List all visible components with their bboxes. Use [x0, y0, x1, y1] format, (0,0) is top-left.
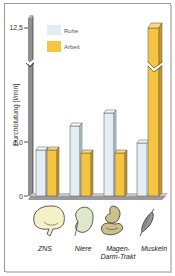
bar-niere-arbeit	[81, 150, 93, 196]
legend-label-arbeit: Arbeit	[64, 44, 80, 50]
category-label-muskeln: Muskeln	[136, 245, 172, 253]
stomach-intestine-icon	[102, 206, 123, 235]
legend-swatch-ruhe	[47, 25, 61, 35]
y-axis	[24, 15, 34, 196]
y-axis-title: Durchblutung [l/min]	[12, 84, 20, 146]
bar-group-muskeln	[137, 23, 163, 196]
bar-muskeln-arbeit	[147, 23, 163, 196]
bar-group-niere	[70, 123, 93, 196]
bar-group-zns	[36, 147, 59, 196]
bar-muskeln-ruhe	[137, 140, 149, 196]
legend: Ruhe Arbeit	[47, 25, 80, 52]
muscle-icon	[140, 209, 154, 236]
brain-icon	[34, 206, 65, 236]
category-label-magen: Magen-	[98, 245, 138, 253]
y-tick-12-5: 12,5	[9, 24, 23, 31]
bar-niere-ruhe	[70, 123, 82, 196]
legend-swatch-arbeit	[47, 41, 61, 52]
category-label-darm-trakt: Darm-Trakt	[96, 253, 140, 261]
legend-label-ruhe: Ruhe	[64, 28, 79, 34]
y-tick-0: 0	[19, 193, 23, 200]
bar-magen-darm-ruhe	[104, 110, 116, 196]
kidney-icon	[75, 207, 93, 236]
bar-magen-darm-arbeit	[115, 150, 127, 196]
bar-chart: 12,5 1,0 0 Durchblutung [l/min] Ruhe Arb…	[0, 0, 175, 276]
category-label-niere: Niere	[68, 245, 98, 253]
category-label-zns: ZNS	[30, 245, 60, 253]
chart-floor	[28, 196, 166, 200]
bar-zns-ruhe	[36, 147, 48, 196]
bar-zns-arbeit	[47, 147, 59, 196]
bar-group-magen-darm	[104, 110, 127, 196]
